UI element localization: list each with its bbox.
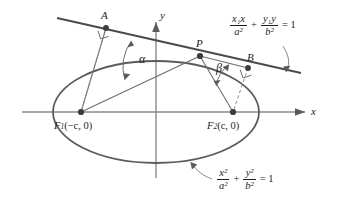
ellipse-equals-one: = 1 [260, 174, 274, 185]
ray-f2-b-guide [200, 56, 248, 68]
focus-2-coords: (c, 0) [217, 120, 239, 131]
point-dot-f2 [230, 109, 236, 115]
tangent-equals-one: = 1 [282, 20, 296, 31]
ellipse-numerator-2: y² [244, 167, 256, 179]
ellipse-denominator-1: a² [217, 180, 229, 192]
equation-tangent-line: x₁x a² + y₁y b² = 1 [229, 13, 299, 38]
tangent-plus-operator: + [251, 20, 257, 31]
label-focus-1: F1(−c, 0) [54, 121, 92, 132]
focus-1-coords: (−c, 0) [64, 120, 92, 131]
label-angle-beta: β [216, 62, 222, 74]
perpendicular-b-f2 [233, 68, 248, 112]
ellipse-tangent-figure: A B P y x α β F1(−c, 0) F2(c, 0) x₁x a² … [0, 0, 346, 198]
right-angle-mark-a [98, 31, 109, 39]
tangent-fraction-1: x₁x a² [230, 13, 247, 38]
label-point-a: A [101, 10, 108, 21]
ellipse-fraction-2: y² b² [243, 167, 255, 192]
label-point-b: B [247, 52, 254, 63]
y-axis [152, 22, 160, 178]
label-axis-x: x [311, 106, 316, 117]
equation-ellipse: x² a² + y² b² = 1 [216, 167, 277, 192]
ellipse-denominator-2: b² [243, 180, 255, 192]
point-dot-a [103, 25, 109, 31]
angle-arc-alpha [123, 41, 134, 80]
x-axis [22, 108, 305, 116]
point-dot-b [245, 65, 251, 71]
label-axis-y: y [160, 10, 165, 21]
label-angle-alpha: α [139, 53, 145, 65]
ellipse-fraction-1: x² a² [217, 167, 229, 192]
label-focus-2: F2(c, 0) [207, 121, 239, 132]
leader-ellipse-equation [190, 162, 212, 179]
tangent-denominator-2: b² [263, 26, 275, 38]
tangent-numerator-2: y₁y [261, 13, 278, 25]
tangent-denominator-1: a² [232, 26, 244, 38]
ellipse-plus-operator: + [233, 174, 239, 185]
point-dot-f1 [78, 109, 84, 115]
ellipse-numerator-1: x² [217, 167, 229, 179]
tangent-numerator-1: x₁x [230, 13, 247, 25]
point-dot-p [197, 53, 203, 59]
tangent-fraction-2: y₁y b² [261, 13, 278, 38]
label-point-p: P [196, 38, 203, 49]
